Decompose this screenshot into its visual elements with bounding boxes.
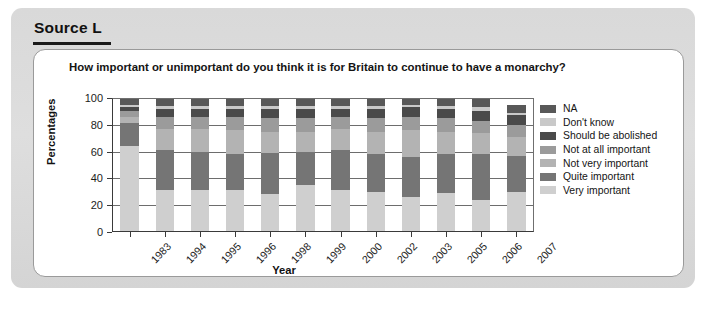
bar-segment bbox=[331, 150, 349, 190]
source-underline-rule bbox=[33, 42, 111, 45]
legend-label: Not at all important bbox=[563, 144, 650, 155]
bar-segment bbox=[226, 190, 244, 232]
bar-1998 bbox=[261, 98, 279, 232]
bar-segment bbox=[507, 125, 525, 137]
bar-segment bbox=[261, 98, 279, 106]
bar-segment bbox=[191, 129, 209, 152]
bar-segment bbox=[472, 98, 490, 107]
bar-segment bbox=[367, 98, 385, 106]
bar-segment bbox=[367, 118, 385, 131]
legend-swatch-icon bbox=[540, 146, 556, 154]
bar-segment bbox=[507, 115, 525, 124]
x-tick-mark bbox=[516, 232, 517, 237]
bar-segment bbox=[261, 153, 279, 195]
bar-segment bbox=[156, 150, 174, 190]
bar-1983 bbox=[120, 98, 138, 232]
x-tick-label: 2000 bbox=[359, 240, 384, 265]
bar-segment bbox=[296, 109, 314, 118]
bar-segment bbox=[507, 137, 525, 156]
bar-segment bbox=[507, 192, 525, 232]
bar-segment bbox=[472, 133, 490, 154]
x-tick-mark bbox=[270, 232, 271, 237]
legend-swatch-icon bbox=[540, 132, 556, 140]
x-tick-mark bbox=[235, 232, 236, 237]
x-tick-label: 2007 bbox=[535, 240, 560, 265]
bar-segment bbox=[472, 111, 490, 120]
bar-segment bbox=[402, 157, 420, 197]
bar-segment bbox=[156, 129, 174, 150]
bar-2000 bbox=[331, 98, 349, 232]
bar-segment bbox=[226, 154, 244, 190]
x-tick-mark bbox=[305, 232, 306, 237]
bar-1994 bbox=[156, 98, 174, 232]
chart-panel: How important or unimportant do you thin… bbox=[33, 49, 684, 277]
bar-segment bbox=[437, 118, 455, 131]
x-tick-label: 1983 bbox=[148, 240, 173, 265]
bar-segment bbox=[261, 118, 279, 131]
bar-segment bbox=[331, 98, 349, 106]
y-tick-mark bbox=[107, 232, 112, 233]
legend-swatch-icon bbox=[540, 105, 556, 113]
legend-swatch-icon bbox=[540, 186, 556, 194]
bar-segment bbox=[472, 200, 490, 232]
bar-segment bbox=[156, 190, 174, 232]
bar-segment bbox=[191, 109, 209, 117]
legend-label: Should be abolished bbox=[563, 130, 657, 141]
bar-segment bbox=[296, 132, 314, 152]
bar-segment bbox=[331, 109, 349, 117]
bar-2006 bbox=[472, 98, 490, 232]
legend-swatch-icon bbox=[540, 159, 556, 167]
bar-segment bbox=[472, 154, 490, 200]
bar-segment bbox=[191, 98, 209, 106]
plot-area: 020406080100 bbox=[112, 98, 534, 232]
gridline bbox=[112, 152, 534, 153]
x-tick-mark bbox=[411, 232, 412, 237]
bar-segment bbox=[402, 107, 420, 116]
bar-segment bbox=[156, 109, 174, 117]
legend-label: Very important bbox=[563, 185, 630, 196]
x-tick-label: 1999 bbox=[324, 240, 349, 265]
bar-segment bbox=[226, 130, 244, 154]
bar-segment bbox=[402, 98, 420, 105]
y-tick-mark bbox=[107, 152, 112, 153]
bar-segment bbox=[296, 185, 314, 232]
bar-segment bbox=[120, 98, 138, 105]
y-tick-label: 40 bbox=[73, 172, 103, 184]
gridline bbox=[112, 205, 534, 206]
x-tick-label: 2002 bbox=[394, 240, 419, 265]
bar-segment bbox=[437, 132, 455, 155]
bar-segment bbox=[120, 123, 138, 146]
bar-segment bbox=[472, 121, 490, 133]
chart-title: How important or unimportant do you thin… bbox=[69, 61, 566, 73]
y-axis-title: Percentages bbox=[45, 98, 57, 165]
x-tick-mark bbox=[200, 232, 201, 237]
bar-2007 bbox=[507, 98, 525, 232]
bar-1999 bbox=[296, 98, 314, 232]
x-tick-label: 2003 bbox=[429, 240, 454, 265]
bar-segment bbox=[191, 152, 209, 191]
bar-segment bbox=[367, 132, 385, 155]
source-label: Source L bbox=[34, 19, 102, 37]
x-tick-mark bbox=[165, 232, 166, 237]
bar-segment bbox=[296, 118, 314, 131]
bar-segment bbox=[402, 197, 420, 232]
y-tick-mark bbox=[107, 125, 112, 126]
bar-segment bbox=[191, 190, 209, 232]
bar-segment bbox=[367, 154, 385, 192]
legend-swatch-icon bbox=[540, 118, 556, 126]
legend-label: NA bbox=[563, 103, 577, 114]
legend-item: Not very important bbox=[540, 156, 657, 170]
legend-swatch-icon bbox=[540, 173, 556, 181]
bar-segment bbox=[367, 192, 385, 232]
y-tick-mark bbox=[107, 98, 112, 99]
y-tick-label: 80 bbox=[73, 119, 103, 131]
legend-item: Don't know bbox=[540, 116, 657, 130]
x-tick-label: 1996 bbox=[253, 240, 278, 265]
x-tick-mark bbox=[481, 232, 482, 237]
bar-segment bbox=[120, 117, 138, 124]
bar-segment bbox=[437, 98, 455, 106]
bar-segment bbox=[507, 156, 525, 192]
x-tick-label: 1998 bbox=[288, 240, 313, 265]
x-tick-label: 2006 bbox=[499, 240, 524, 265]
bar-1995 bbox=[191, 98, 209, 232]
